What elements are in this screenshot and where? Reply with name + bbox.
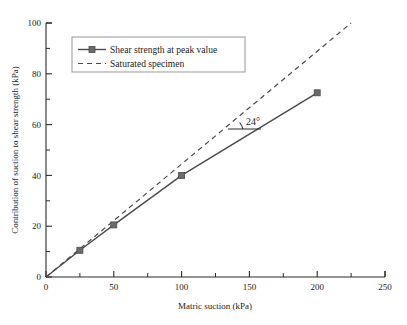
y-axis-title: Contribution of suction to shear strengt… [10,66,20,233]
y-ticklabel-40: 40 [32,171,42,181]
angle-annotation: 24° [228,116,261,129]
chart-figure: 0 20 40 60 80 100 0 50 100 150 [0,0,407,325]
legend-label-saturated-specimen: Saturated specimen [110,59,184,69]
y-axis-tick-labels: 0 20 40 60 80 100 [28,18,42,282]
data-point-marker [179,172,185,178]
x-ticklabel-150: 150 [243,282,257,292]
x-ticklabel-200: 200 [310,282,324,292]
angle-label: 24° [246,116,260,127]
x-axis-tick-labels: 0 50 100 150 200 250 [44,282,393,292]
x-ticklabel-250: 250 [378,282,392,292]
y-ticklabel-0: 0 [37,272,42,282]
y-axis-ticks [46,23,52,277]
series-shear-strength-peak [46,93,317,277]
x-ticklabel-0: 0 [44,282,49,292]
series-shear-strength-markers [77,90,320,254]
y-ticklabel-60: 60 [32,120,42,130]
x-ticklabel-100: 100 [175,282,189,292]
legend-swatch-square-marker [89,47,95,53]
data-point-marker [111,222,117,228]
chart-canvas: 0 20 40 60 80 100 0 50 100 150 [0,0,407,325]
y-ticklabel-80: 80 [32,69,42,79]
angle-arc [240,123,243,130]
y-ticklabel-20: 20 [32,221,42,231]
y-ticklabel-100: 100 [28,18,42,28]
x-ticklabel-50: 50 [109,282,119,292]
data-point-marker [314,90,320,96]
chart-legend: Shear strength at peak value Saturated s… [72,37,245,72]
legend-label-shear-strength: Shear strength at peak value [110,45,217,55]
x-axis-title: Matric suction (kPa) [178,301,252,311]
x-axis-ticks [46,271,385,277]
data-point-marker [77,247,83,253]
